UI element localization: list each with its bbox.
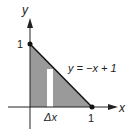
x-intercept-point xyxy=(90,105,95,110)
diagram-canvas: y x 1 1 y = −x + 1 Δx xyxy=(0,0,130,132)
delta-x-label: Δx xyxy=(43,111,57,123)
y-intercept-point xyxy=(28,42,33,47)
y-axis-label: y xyxy=(21,3,29,17)
x-tick-one-label: 1 xyxy=(88,112,94,124)
x-axis-arrow-icon xyxy=(108,104,118,110)
line-equation-label: y = −x + 1 xyxy=(67,62,117,74)
x-axis-label: x xyxy=(118,101,126,115)
y-axis-arrow-icon xyxy=(27,18,33,28)
y-tick-one-label: 1 xyxy=(17,38,23,50)
delta-x-strip xyxy=(47,69,53,107)
